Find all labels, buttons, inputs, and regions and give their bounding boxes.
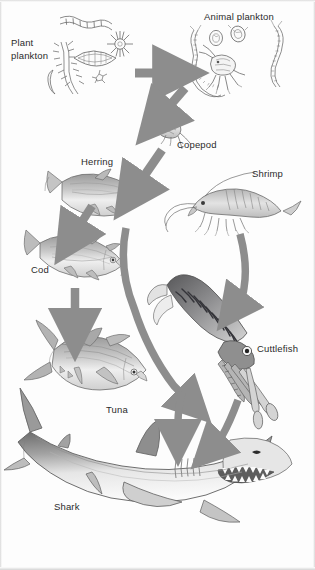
shrimp-illustration — [165, 172, 301, 236]
animal-plankton-illustration — [190, 20, 283, 97]
plant-plankton-illustration — [48, 16, 133, 94]
arrow-tuna-to-shark — [178, 392, 182, 428]
arrow-animal-to-copepod — [166, 88, 185, 110]
arrow-copepod-to-herring — [140, 150, 162, 182]
arrow-shrimp-to-cuttlefish — [240, 234, 245, 300]
tuna-illustration — [24, 320, 147, 390]
label-shrimp: Shrimp — [252, 168, 283, 181]
shark-illustration — [4, 388, 292, 522]
label-plant-plankton: Plant plankton — [11, 37, 48, 62]
label-cuttlefish: Cuttlefish — [257, 343, 298, 356]
label-animal-plankton: Animal plankton — [204, 11, 274, 24]
label-herring: Herring — [81, 156, 113, 169]
label-cod: Cod — [31, 264, 49, 277]
food-chain-illustration — [0, 0, 315, 570]
label-tuna: Tuna — [106, 404, 128, 417]
label-shark: Shark — [54, 501, 80, 514]
food-chain-diagram: Plant plankton Animal plankton Copepod H… — [0, 0, 315, 570]
label-copepod: Copepod — [177, 139, 217, 152]
arrow-cuttlefish-to-shark — [218, 400, 238, 442]
